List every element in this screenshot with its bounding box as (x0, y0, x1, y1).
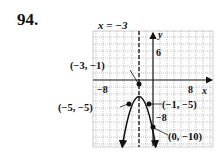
graph: x = −3 y 6 −8 8 x −8 (−3, −1) (−5, −5) (… (0, 0, 223, 166)
asymptote-label: x = −3 (97, 19, 128, 31)
label-right-point: (−1, −5) (162, 99, 197, 111)
y-axis-label: y (157, 29, 163, 40)
y-tick-neg8: −8 (156, 112, 167, 123)
y-tick-6: 6 (156, 47, 161, 58)
label-vertex: (−3, −1) (70, 60, 105, 72)
label-intercept: (0, −10) (168, 131, 202, 143)
x-tick-8: 8 (188, 84, 193, 95)
label-left-point: (−5, −5) (58, 102, 93, 114)
x-tick-neg8: −8 (97, 84, 108, 95)
x-axis-label: x (201, 85, 207, 96)
